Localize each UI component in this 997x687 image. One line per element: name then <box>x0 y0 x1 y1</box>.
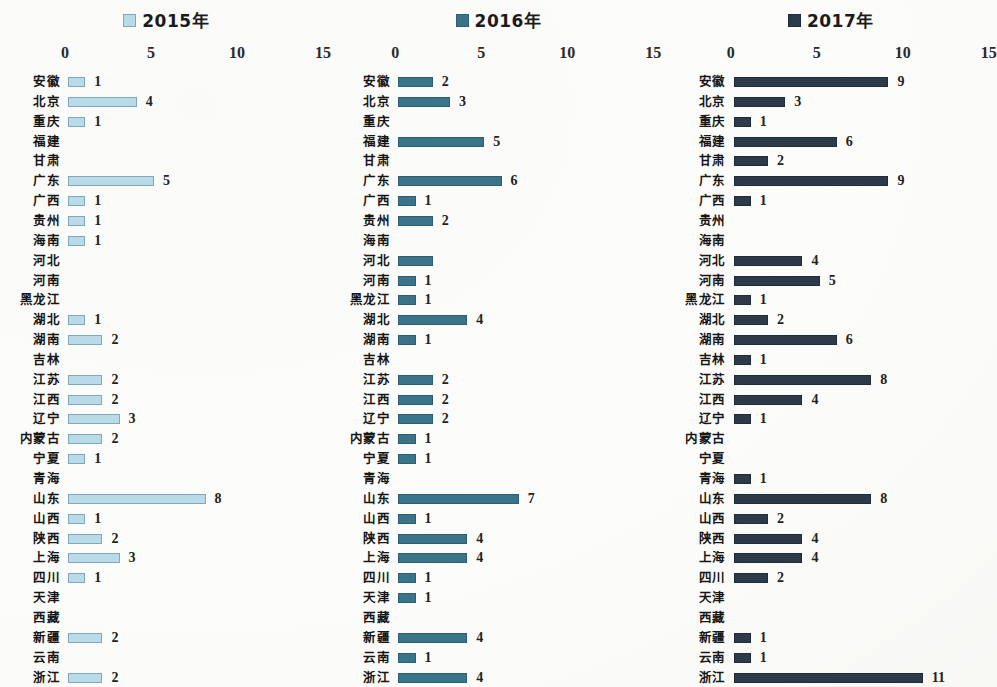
bar-value-label: 1 <box>425 330 432 350</box>
x-axis: 051015 <box>0 44 332 68</box>
bar <box>398 494 518 504</box>
bar <box>734 156 768 166</box>
bar-row: 辽宁3 <box>0 409 332 429</box>
bar-value-label: 1 <box>760 409 767 429</box>
bar <box>68 573 85 583</box>
category-label: 重庆 <box>699 112 726 132</box>
bar-value-label: 4 <box>476 310 483 330</box>
bar <box>68 633 102 643</box>
bar-value-label: 4 <box>146 92 153 112</box>
bar <box>734 77 889 87</box>
category-label: 甘肃 <box>33 151 60 171</box>
bar-row: 安徽1 <box>0 72 332 92</box>
bar <box>734 573 768 583</box>
category-label: 广东 <box>699 171 726 191</box>
category-label: 上海 <box>699 548 726 568</box>
bar <box>734 414 751 424</box>
bar <box>68 534 102 544</box>
bar-row: 陕西4 <box>332 529 664 549</box>
category-label: 上海 <box>363 548 390 568</box>
bar-row: 辽宁2 <box>332 409 664 429</box>
bar-value-label: 2 <box>111 668 118 687</box>
category-label: 江苏 <box>363 370 390 390</box>
bar <box>68 514 85 524</box>
bar-row: 浙江2 <box>0 668 332 687</box>
category-label: 贵州 <box>699 211 726 231</box>
bar-value-label: 1 <box>425 290 432 310</box>
bar-value-label: 4 <box>811 251 818 271</box>
x-axis: 051015 <box>332 44 664 68</box>
bar-row: 福建6 <box>665 132 997 152</box>
bar <box>734 534 803 544</box>
bar <box>68 196 85 206</box>
legend-label: 2015年 <box>142 7 209 32</box>
bar-row: 安徽9 <box>665 72 997 92</box>
bar <box>398 375 432 385</box>
bar-row: 贵州 <box>665 211 997 231</box>
bar-row: 甘肃 <box>0 151 332 171</box>
chart-panel-2016: 2016年051015安徽2北京3重庆福建5甘肃广东6广西1贵州2海南河北河南1… <box>332 0 664 687</box>
category-label: 内蒙古 <box>20 429 61 449</box>
category-label: 安徽 <box>363 72 390 92</box>
bar-row: 天津1 <box>332 588 664 608</box>
bar <box>734 295 751 305</box>
x-axis-tick-label: 0 <box>727 44 735 62</box>
bar <box>398 315 467 325</box>
category-label: 福建 <box>699 132 726 152</box>
bar-value-label: 4 <box>811 548 818 568</box>
bar-value-label: 1 <box>94 310 101 330</box>
category-label: 四川 <box>699 568 726 588</box>
category-label: 内蒙古 <box>685 429 726 449</box>
bar-value-label: 1 <box>94 231 101 251</box>
bar-value-label: 1 <box>425 271 432 291</box>
bar-row: 浙江4 <box>332 668 664 687</box>
bar-row: 黑龙江 <box>0 290 332 310</box>
bar-row: 湖南6 <box>665 330 997 350</box>
category-label: 贵州 <box>33 211 60 231</box>
bar-row: 云南 <box>0 648 332 668</box>
category-label: 云南 <box>33 648 60 668</box>
bar-row: 广东6 <box>332 171 664 191</box>
plot-area: 安徽9北京3重庆1福建6甘肃2广东9广西1贵州海南河北4河南5黑龙江1湖北2湖南… <box>665 72 997 687</box>
category-label: 山西 <box>363 509 390 529</box>
category-label: 新疆 <box>363 628 390 648</box>
category-label: 甘肃 <box>699 151 726 171</box>
legend-label: 2017年 <box>807 7 874 32</box>
category-label: 重庆 <box>33 112 60 132</box>
bar-row: 重庆1 <box>665 112 997 132</box>
category-label: 天津 <box>363 588 390 608</box>
bar <box>398 77 432 87</box>
bar-value-label: 4 <box>811 390 818 410</box>
bar-row: 河北 <box>0 251 332 271</box>
category-label: 宁夏 <box>363 449 390 469</box>
category-label: 安徽 <box>699 72 726 92</box>
bar-row: 宁夏1 <box>0 449 332 469</box>
bar-value-label: 3 <box>459 92 466 112</box>
bar-value-label: 8 <box>880 370 887 390</box>
bar <box>734 97 786 107</box>
category-label: 湖南 <box>699 330 726 350</box>
x-axis-tick-label: 0 <box>61 44 69 62</box>
category-label: 青海 <box>699 469 726 489</box>
bar-row: 四川2 <box>665 568 997 588</box>
bar <box>734 256 803 266</box>
bar <box>398 414 432 424</box>
chart-group: 2015年051015安徽1北京4重庆1福建甘肃广东5广西1贵州1海南1河北河南… <box>0 0 997 687</box>
bar-row: 福建 <box>0 132 332 152</box>
bar-value-label: 2 <box>111 529 118 549</box>
bar-value-label: 6 <box>846 330 853 350</box>
bar <box>398 216 432 226</box>
bar-value-label: 1 <box>425 588 432 608</box>
category-label: 广东 <box>33 171 60 191</box>
bar <box>398 276 415 286</box>
category-label: 浙江 <box>33 668 60 687</box>
bar-row: 黑龙江1 <box>332 290 664 310</box>
category-label: 上海 <box>33 548 60 568</box>
category-label: 湖北 <box>33 310 60 330</box>
category-label: 山西 <box>699 509 726 529</box>
category-label: 湖北 <box>363 310 390 330</box>
x-axis-tick-label: 10 <box>895 44 911 62</box>
legend-swatch-icon <box>788 14 801 27</box>
bar <box>68 216 85 226</box>
category-label: 江苏 <box>33 370 60 390</box>
